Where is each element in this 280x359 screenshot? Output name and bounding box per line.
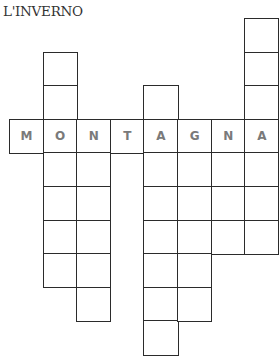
- given-letter-cell: G: [177, 119, 212, 154]
- empty-answer-cell[interactable]: [143, 85, 178, 120]
- empty-answer-cell[interactable]: [177, 220, 212, 255]
- given-letter-cell: M: [9, 119, 44, 154]
- given-letter-cell: T: [110, 119, 145, 154]
- empty-answer-cell[interactable]: [177, 186, 212, 221]
- empty-answer-cell[interactable]: [211, 220, 246, 255]
- empty-answer-cell[interactable]: [76, 186, 111, 221]
- empty-answer-cell[interactable]: [143, 287, 178, 322]
- empty-answer-cell[interactable]: [177, 287, 212, 322]
- empty-answer-cell[interactable]: [143, 320, 178, 355]
- empty-answer-cell[interactable]: [244, 18, 279, 53]
- empty-answer-cell[interactable]: [143, 186, 178, 221]
- given-letter-cell: A: [244, 119, 279, 154]
- empty-answer-cell[interactable]: [143, 152, 178, 187]
- empty-answer-cell[interactable]: [211, 186, 246, 221]
- empty-answer-cell[interactable]: [211, 152, 246, 187]
- empty-answer-cell[interactable]: [244, 85, 279, 120]
- empty-answer-cell[interactable]: [244, 152, 279, 187]
- given-letter-cell: N: [211, 119, 246, 154]
- empty-answer-cell[interactable]: [43, 186, 78, 221]
- empty-answer-cell[interactable]: [43, 152, 78, 187]
- empty-answer-cell[interactable]: [177, 253, 212, 288]
- empty-answer-cell[interactable]: [76, 287, 111, 322]
- empty-answer-cell[interactable]: [177, 152, 212, 187]
- crossword-grid: MONTAGNA: [0, 0, 280, 359]
- given-letter-cell: A: [143, 119, 178, 154]
- empty-answer-cell[interactable]: [244, 220, 279, 255]
- empty-answer-cell[interactable]: [76, 253, 111, 288]
- given-letter-cell: O: [43, 119, 78, 154]
- empty-answer-cell[interactable]: [43, 85, 78, 120]
- empty-answer-cell[interactable]: [143, 253, 178, 288]
- empty-answer-cell[interactable]: [143, 220, 178, 255]
- empty-answer-cell[interactable]: [43, 253, 78, 288]
- empty-answer-cell[interactable]: [76, 220, 111, 255]
- given-letter-cell: N: [76, 119, 111, 154]
- empty-answer-cell[interactable]: [244, 52, 279, 87]
- empty-answer-cell[interactable]: [76, 152, 111, 187]
- empty-answer-cell[interactable]: [43, 220, 78, 255]
- empty-answer-cell[interactable]: [244, 186, 279, 221]
- empty-answer-cell[interactable]: [43, 52, 78, 87]
